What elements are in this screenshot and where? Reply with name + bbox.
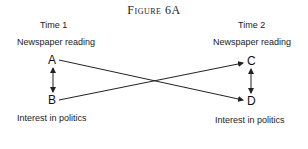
path-diagram-arrows xyxy=(0,0,308,149)
